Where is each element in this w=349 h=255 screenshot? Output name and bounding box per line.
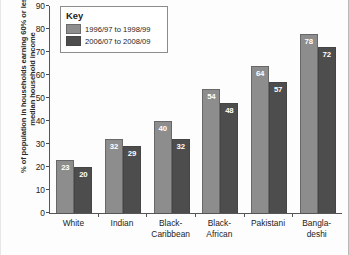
x-axis-tick-mark [292, 213, 293, 217]
y-axis-tick-label: 0 [24, 208, 49, 218]
y-axis-tick-label: 50 [24, 93, 49, 103]
y-axis-tick-label: 40 [24, 116, 49, 126]
bar-indian-series-0[interactable]: 32 [105, 139, 123, 213]
y-axis-tick-label: 30 [24, 139, 49, 149]
bar-black-caribbean-series-0[interactable]: 40 [154, 121, 172, 213]
bar-group: 5448 [196, 6, 245, 213]
bar-value-label: 29 [128, 149, 136, 158]
bar-group: 7872 [293, 6, 342, 213]
y-axis-tick-label: 70 [24, 47, 49, 57]
figure-left-border [0, 0, 1, 255]
bar-value-label: 40 [159, 124, 167, 133]
x-axis-tick-mark [98, 213, 99, 217]
y-axis-tick-label: 80 [24, 24, 49, 34]
bar-bangladeshi-series-0[interactable]: 78 [300, 34, 318, 213]
x-axis-tick-mark [244, 213, 245, 217]
x-axis-tick-mark [146, 213, 147, 217]
x-axis-label-black-caribbean: Black-Caribbean [146, 218, 195, 240]
bar-value-label: 64 [256, 69, 264, 78]
bar-value-label: 54 [207, 92, 215, 101]
bar-value-label: 32 [177, 142, 185, 151]
bar-value-label: 72 [323, 50, 331, 59]
y-axis-tick-label: 90 [24, 1, 49, 11]
bar-black-african-series-1[interactable]: 48 [220, 103, 238, 213]
legend-swatch-series-1 [66, 36, 81, 46]
bar-black-caribbean-series-1[interactable]: 32 [172, 139, 190, 213]
x-axis-label-pakistani: Pakistani [244, 218, 293, 240]
x-axis-category-labels: WhiteIndianBlack-CaribbeanBlack-AfricanP… [49, 218, 341, 240]
bar-value-label: 78 [305, 37, 313, 46]
y-axis-tick-label: 10 [24, 185, 49, 195]
x-axis-tick-mark [195, 213, 196, 217]
bar-value-label: 57 [274, 85, 282, 94]
bar-value-label: 20 [79, 170, 87, 179]
y-axis-tick-label: 20 [24, 162, 49, 172]
legend-label-series-0: 1996/97 to 1998/99 [85, 25, 150, 34]
bar-value-label: 48 [225, 106, 233, 115]
bar-bangladeshi-series-1[interactable]: 72 [318, 47, 336, 213]
x-axis-label-black-african: Black-African [195, 218, 244, 240]
bar-value-label: 32 [110, 142, 118, 151]
legend-item-series-0[interactable]: 1996/97 to 1998/99 [66, 24, 162, 34]
bar-group: 6457 [245, 6, 294, 213]
bar-indian-series-1[interactable]: 29 [123, 146, 141, 213]
bar-white-series-0[interactable]: 23 [56, 160, 74, 213]
bar-white-series-1[interactable]: 20 [74, 167, 92, 213]
chart-legend: Key 1996/97 to 1998/99 2006/07 to 2008/0… [60, 6, 168, 53]
legend-swatch-series-0 [66, 24, 81, 34]
y-axis-ticks: 9080706050403020100 [24, 6, 49, 213]
x-axis-label-white: White [49, 218, 98, 240]
bar-pakistani-series-0[interactable]: 64 [251, 66, 269, 213]
legend-item-series-1[interactable]: 2006/07 to 2008/09 [66, 36, 162, 46]
legend-label-series-1: 2006/07 to 2008/09 [85, 37, 150, 46]
legend-title: Key [66, 10, 162, 21]
bar-chart-figure: % of population in households earning 60… [0, 0, 349, 255]
bar-pakistani-series-1[interactable]: 57 [269, 82, 287, 213]
bar-value-label: 23 [61, 163, 69, 172]
y-axis-tick-label: 60 [24, 70, 49, 80]
bar-black-african-series-0[interactable]: 54 [202, 89, 220, 213]
x-axis-label-bangladeshi: Bangla-deshi [292, 218, 341, 240]
x-axis-label-indian: Indian [98, 218, 147, 240]
